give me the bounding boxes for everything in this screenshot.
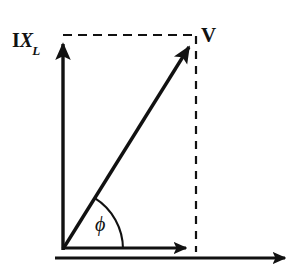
phasor-diagram-canvas	[0, 0, 307, 269]
voltage-vector-label: V	[201, 25, 216, 46]
vertical-axis-label-subscript: L	[32, 43, 40, 58]
vertical-axis-label-i: I	[12, 29, 20, 51]
phi-angle-label: ϕ	[95, 214, 105, 234]
vertical-axis-label: IXL	[12, 30, 41, 54]
voltage-vector-line	[63, 47, 189, 249]
phasor-diagram-figure: IXL V ϕ	[0, 0, 307, 269]
